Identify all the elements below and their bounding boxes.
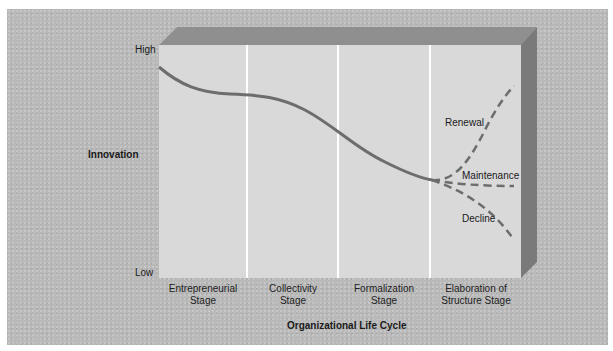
stage-label-line: Elaboration of [432, 283, 520, 295]
x-axis-label: Organizational Life Cycle [287, 320, 406, 331]
stage-label-line: Stage [162, 295, 244, 307]
maintenance-label: Maintenance [462, 170, 519, 181]
stage-label-line: Collectivity [250, 283, 336, 295]
renewal-label: Renewal [445, 117, 484, 128]
stage-label-line: Structure Stage [432, 295, 520, 307]
stage-label-formalization: Formalization Stage [340, 283, 428, 307]
stage-label-line: Entrepreneurial [162, 283, 244, 295]
box-top-bevel [159, 27, 537, 45]
stage-label-line: Stage [250, 295, 336, 307]
stage-label-entrepreneurial: Entrepreneurial Stage [162, 283, 244, 307]
stage-label-line: Formalization [340, 283, 428, 295]
stage-label-elaboration: Elaboration of Structure Stage [432, 283, 520, 307]
decline-label: Decline [462, 213, 495, 224]
y-axis-label: Innovation [88, 149, 139, 160]
stage-label-collectivity: Collectivity Stage [250, 283, 336, 307]
y-tick-low: Low [135, 267, 153, 278]
y-tick-high: High [135, 44, 156, 55]
box-side-bevel [521, 27, 537, 278]
stage-label-line: Stage [340, 295, 428, 307]
